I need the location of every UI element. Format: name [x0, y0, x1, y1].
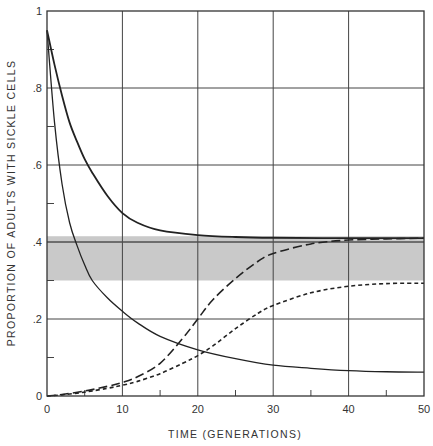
y-tick-label: .8: [33, 82, 42, 94]
x-tick-label: 40: [342, 403, 354, 415]
y-tick-label: .4: [33, 236, 42, 248]
x-tick-label: 10: [116, 403, 128, 415]
y-tick-label: 1: [36, 5, 42, 17]
x-tick-label: 0: [44, 403, 50, 415]
grid-lines: [47, 11, 424, 396]
plot-frame: [47, 11, 424, 396]
series-lower-solid: [47, 30, 424, 372]
gray-band: [47, 236, 424, 280]
x-tick-label: 30: [267, 403, 279, 415]
sickle-cell-chart: 01020304050 0.2.4.6.81 TIME (GENERATIONS…: [0, 0, 433, 446]
shaded-band: [47, 236, 424, 280]
y-tick-labels: 0.2.4.6.81: [33, 5, 42, 402]
x-tick-labels: 01020304050: [44, 403, 430, 415]
y-tick-label: 0: [36, 390, 42, 402]
series-short-dashed: [47, 283, 424, 396]
y-axis-title: PROPORTION OF ADULTS WITH SICKLE CELLS: [5, 60, 17, 346]
data-series: [47, 30, 424, 396]
x-tick-label: 50: [418, 403, 430, 415]
x-tick-label: 20: [192, 403, 204, 415]
minor-ticks: [47, 50, 386, 397]
y-tick-label: .2: [33, 313, 42, 325]
y-tick-label: .6: [33, 159, 42, 171]
series-upper-solid: [47, 30, 424, 238]
x-axis-title: TIME (GENERATIONS): [168, 428, 302, 440]
